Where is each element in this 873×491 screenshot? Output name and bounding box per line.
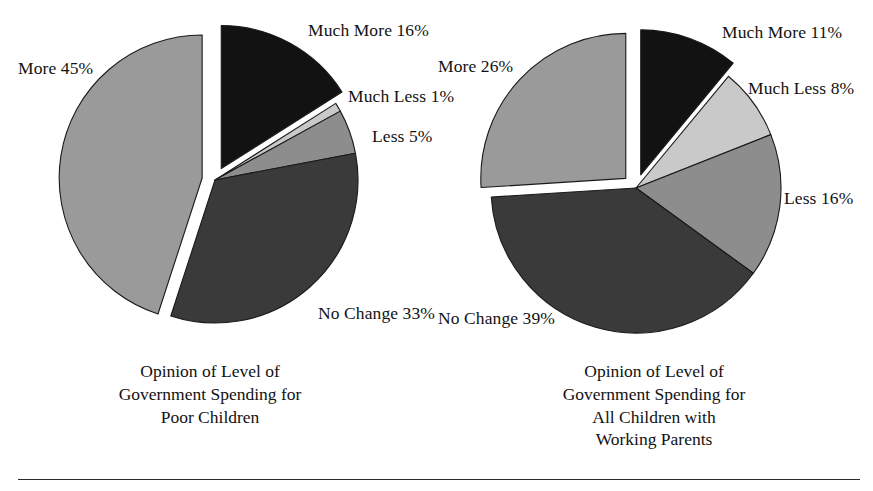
left-caption-line-1: Opinion of Level of bbox=[30, 360, 390, 383]
right-label-much-less: Much Less 8% bbox=[748, 78, 854, 99]
right-label-less: Less 16% bbox=[784, 188, 853, 209]
right-caption-line-4: Working Parents bbox=[474, 428, 834, 451]
left-caption-line-3: Poor Children bbox=[30, 406, 390, 429]
left-label-much-more: Much More 16% bbox=[308, 20, 429, 41]
right-label-no-change: No Change 39% bbox=[438, 308, 555, 329]
right-chart-caption: Opinion of Level of Government Spending … bbox=[474, 360, 834, 451]
left-label-no-change: No Change 33% bbox=[318, 303, 435, 324]
bottom-divider-rule bbox=[18, 479, 860, 480]
left-label-less: Less 5% bbox=[372, 126, 432, 147]
left-chart-caption: Opinion of Level of Government Spending … bbox=[30, 360, 390, 428]
left-caption-line-2: Government Spending for bbox=[30, 383, 390, 406]
right-caption-line-2: Government Spending for bbox=[474, 383, 834, 406]
right-chart-panel: Much More 11%Much Less 8%Less 16%No Chan… bbox=[436, 0, 873, 491]
pie-chart-figure: Much More 16%Much Less 1%Less 5%No Chang… bbox=[0, 0, 873, 491]
left-label-more: More 45% bbox=[18, 58, 93, 79]
right-caption-line-1: Opinion of Level of bbox=[474, 360, 834, 383]
left-chart-panel: Much More 16%Much Less 1%Less 5%No Chang… bbox=[0, 0, 436, 491]
right-caption-line-3: All Children with bbox=[474, 406, 834, 429]
right-label-much-more: Much More 11% bbox=[722, 22, 842, 43]
right-label-more: More 26% bbox=[438, 56, 513, 77]
